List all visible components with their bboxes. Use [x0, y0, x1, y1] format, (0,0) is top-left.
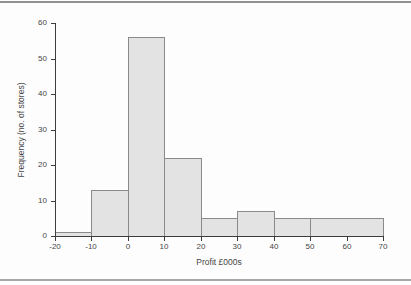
histogram-bar: [128, 37, 165, 237]
x-tick-label: 70: [379, 242, 388, 252]
x-axis-tick: [310, 237, 311, 241]
y-tick-label: 0: [21, 231, 47, 241]
x-axis-title: Profit £000s: [196, 257, 241, 267]
bottom-border-rule: [0, 279, 411, 281]
histogram-bar: [91, 190, 129, 237]
x-tick-label: 10: [160, 242, 169, 252]
x-tick-label: 0: [126, 242, 130, 252]
y-axis-tick: [51, 236, 55, 237]
x-axis-tick: [128, 237, 129, 241]
x-axis-tick: [383, 237, 384, 241]
y-axis-tick: [51, 201, 55, 202]
x-axis-tick: [55, 237, 56, 241]
x-axis-tick: [91, 237, 92, 241]
x-axis-tick: [237, 237, 238, 241]
x-tick-label: 50: [306, 242, 315, 252]
y-tick-label: 50: [21, 54, 47, 64]
histogram-bar: [237, 211, 275, 237]
y-axis-tick: [51, 23, 55, 24]
top-border-rule: [0, 1, 411, 3]
x-tick-label: 20: [197, 242, 206, 252]
y-axis-tick: [51, 130, 55, 131]
y-axis-tick: [51, 165, 55, 166]
x-tick-label: -20: [49, 242, 61, 252]
x-axis-tick: [201, 237, 202, 241]
y-axis-tick: [51, 94, 55, 95]
x-tick-label: 30: [233, 242, 242, 252]
x-axis-tick: [164, 237, 165, 241]
y-axis-tick: [51, 59, 55, 60]
y-tick-label: 20: [21, 160, 47, 170]
y-tick-label: 40: [21, 89, 47, 99]
y-axis-line: [55, 23, 56, 237]
histogram-bar: [164, 158, 202, 237]
histogram-bar: [274, 218, 311, 237]
x-tick-label: -10: [85, 242, 97, 252]
y-tick-label: 10: [21, 196, 47, 206]
x-tick-label: 60: [343, 242, 352, 252]
x-axis-line: [55, 236, 384, 237]
plot-area: -20-100102030405060700102030405060: [55, 23, 383, 236]
figure-page: Frequency (no. of stores) -20-1001020304…: [0, 0, 411, 285]
histogram-bar: [310, 218, 384, 237]
y-tick-label: 60: [21, 18, 47, 28]
y-tick-label: 30: [21, 125, 47, 135]
x-axis-tick: [274, 237, 275, 241]
x-axis-tick: [347, 237, 348, 241]
histogram-bar: [201, 218, 238, 237]
x-tick-label: 40: [270, 242, 279, 252]
